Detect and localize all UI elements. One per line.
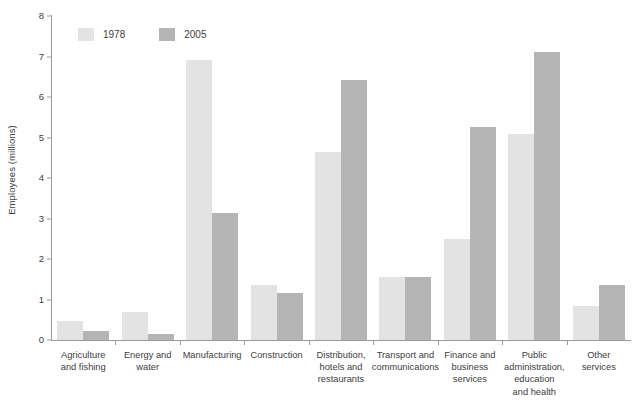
bar-pair xyxy=(373,16,437,340)
bar-2005 xyxy=(212,213,238,340)
x-axis-category-label-line: and health xyxy=(498,386,570,398)
x-axis-line xyxy=(51,340,631,341)
x-axis-category-label-line: administration, xyxy=(498,361,570,373)
x-axis-category-label: Construction xyxy=(240,349,312,361)
x-axis-category-label-line: Finance and xyxy=(434,349,506,361)
bar-2005 xyxy=(277,293,303,340)
y-axis-tick-label: 0 xyxy=(39,333,44,346)
y-axis-title: Employees (millions) xyxy=(2,0,20,340)
x-axis-category-label-line: education xyxy=(498,373,570,385)
bar-1978 xyxy=(444,239,470,340)
bar-group xyxy=(51,16,115,340)
x-axis-category-label-line: business xyxy=(434,361,506,373)
bar-2005 xyxy=(405,277,431,340)
x-axis-separator-tick xyxy=(373,340,374,345)
bar-1978 xyxy=(315,152,341,340)
y-axis-tick-label: 5 xyxy=(39,130,44,143)
bar-group xyxy=(309,16,373,340)
y-axis-tick-label: 2 xyxy=(39,252,44,265)
x-axis-category-label: Transport andcommunications xyxy=(369,349,441,373)
bar-2005 xyxy=(148,334,174,340)
x-axis-separator-tick xyxy=(567,340,568,345)
legend-item-2005[interactable]: 2005 xyxy=(159,28,206,41)
plot-area: 012345678 xyxy=(51,16,631,340)
bar-group xyxy=(244,16,308,340)
legend-swatch-2005 xyxy=(159,28,175,41)
bar-1978 xyxy=(379,277,405,340)
bar-chart: Employees (millions) 012345678 Agricultu… xyxy=(0,0,636,405)
x-axis-separator-tick xyxy=(309,340,310,345)
x-axis-category-label: Manufacturing xyxy=(176,349,248,361)
x-axis-separator-tick xyxy=(115,340,116,345)
bar-1978 xyxy=(122,312,148,340)
legend-label: 1978 xyxy=(103,29,125,40)
y-axis-tick-label: 8 xyxy=(39,9,44,22)
bar-1978 xyxy=(508,134,534,340)
bar-pair xyxy=(502,16,566,340)
legend-item-1978[interactable]: 1978 xyxy=(78,28,125,41)
x-axis-category-label: Agricultureand fishing xyxy=(47,349,119,373)
y-axis-tick-label: 4 xyxy=(39,171,44,184)
x-axis-category-label-line: Distribution, xyxy=(305,349,377,361)
x-axis-separator-tick xyxy=(502,340,503,345)
x-axis-separator-tick xyxy=(244,340,245,345)
x-axis-category-label-line: restaurants xyxy=(305,373,377,385)
x-axis-category-label-line: Transport and xyxy=(369,349,441,361)
x-axis-category-label-line: Agriculture xyxy=(47,349,119,361)
bar-pair xyxy=(115,16,179,340)
x-axis-category-label: Distribution,hotels andrestaurants xyxy=(305,349,377,386)
bar-1978 xyxy=(57,321,83,340)
y-axis-tick-label: 3 xyxy=(39,211,44,224)
x-axis-category-label: Publicadministration,educationand health xyxy=(498,349,570,398)
x-axis-category-label-line: services xyxy=(434,373,506,385)
legend-swatch-1978 xyxy=(78,28,94,41)
x-axis-category-label-line: Manufacturing xyxy=(176,349,248,361)
bar-group xyxy=(438,16,502,340)
bar-2005 xyxy=(83,331,109,340)
y-axis-tick-label: 1 xyxy=(39,292,44,305)
bar-1978 xyxy=(186,60,212,340)
bar-2005 xyxy=(341,80,367,340)
x-axis-category-label-line: and fishing xyxy=(47,361,119,373)
bar-group xyxy=(567,16,631,340)
x-axis-separator-tick xyxy=(180,340,181,345)
bar-pair xyxy=(51,16,115,340)
x-axis-category-label-line: hotels and xyxy=(305,361,377,373)
bar-2005 xyxy=(599,285,625,340)
x-axis-category-label-line: services xyxy=(563,361,635,373)
x-axis-category-label: Otherservices xyxy=(563,349,635,373)
bar-group xyxy=(115,16,179,340)
bar-2005 xyxy=(534,52,560,340)
x-axis-category-label-line: water xyxy=(111,361,183,373)
x-axis-category-label-line: Energy and xyxy=(111,349,183,361)
x-axis-category-label: Finance andbusinessservices xyxy=(434,349,506,386)
bar-pair xyxy=(309,16,373,340)
legend-label: 2005 xyxy=(184,29,206,40)
x-axis-category-label: Energy andwater xyxy=(111,349,183,373)
y-axis-tick-label: 7 xyxy=(39,49,44,62)
x-axis-category-label-line: Other xyxy=(563,349,635,361)
y-axis-tick-label: 6 xyxy=(39,90,44,103)
bar-pair xyxy=(180,16,244,340)
bar-1978 xyxy=(573,306,599,340)
bar-group xyxy=(373,16,437,340)
bar-1978 xyxy=(251,285,277,340)
bar-group xyxy=(502,16,566,340)
x-axis-separator-tick xyxy=(438,340,439,345)
bar-pair xyxy=(438,16,502,340)
x-axis-category-label-line: Public xyxy=(498,349,570,361)
bar-pair xyxy=(567,16,631,340)
x-axis-category-label-line: Construction xyxy=(240,349,312,361)
bar-pair xyxy=(244,16,308,340)
x-axis-category-label-line: communications xyxy=(369,361,441,373)
bar-2005 xyxy=(470,127,496,340)
bar-group xyxy=(180,16,244,340)
chart-legend: 19782005 xyxy=(78,28,207,41)
